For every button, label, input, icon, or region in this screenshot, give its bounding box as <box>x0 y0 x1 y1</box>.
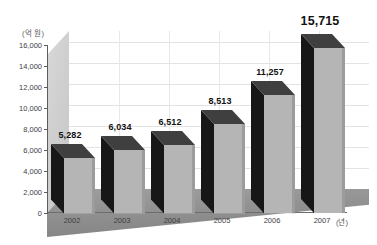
bar-value-label-2006: 11,257 <box>256 67 284 77</box>
bar-front-face <box>164 145 195 213</box>
bar-value-label-2003: 6,034 <box>108 122 131 132</box>
bar-2005[interactable] <box>214 124 245 213</box>
x-axis-tick-label-2005: 2005 <box>214 216 231 225</box>
bar-2007[interactable] <box>314 48 345 213</box>
bar-value-label-2007: 15,715 <box>301 14 340 28</box>
bar-front-shading <box>142 150 145 213</box>
x-axis-unit-label: (년) <box>336 216 348 227</box>
bar-front-shading <box>92 158 95 213</box>
bar-2003[interactable] <box>114 150 145 213</box>
y-axis-tick-label: 8,000 <box>0 125 42 134</box>
y-axis-unit-label: (억 원) <box>22 27 44 38</box>
y-axis-tick-label: 10,000 <box>0 104 42 113</box>
y-axis-tick <box>44 213 48 214</box>
bar-front-shading <box>242 124 245 213</box>
y-axis-tick <box>44 66 48 67</box>
bar-3d-geometry <box>301 34 345 215</box>
bar-2004[interactable] <box>164 145 195 213</box>
bar-front-face <box>264 95 295 213</box>
x-axis-tick-label-2007: 2007 <box>314 216 331 225</box>
bar-value-label-2004: 6,512 <box>158 117 181 127</box>
bar-front-face <box>214 124 245 213</box>
bar-side-face <box>201 110 214 213</box>
y-axis-tick <box>44 171 48 172</box>
bar-front-shading <box>292 95 295 213</box>
y-axis-tick-label: 4,000 <box>0 167 42 176</box>
bar-3d-geometry <box>251 81 295 215</box>
y-axis-tick <box>44 87 48 88</box>
y-axis-tick-label: 14,000 <box>0 62 42 71</box>
bar-front-face <box>64 158 95 213</box>
bar-front-shading <box>192 145 195 213</box>
bar-3d-geometry <box>51 144 95 215</box>
x-axis-tick-label-2006: 2006 <box>264 216 281 225</box>
bar-chart: 02,0004,0006,0008,00010,00012,00014,0001… <box>0 0 377 245</box>
y-axis-tick <box>44 45 48 46</box>
bar-front-face <box>114 150 145 213</box>
bar-front-face <box>314 48 345 213</box>
y-axis-tick <box>44 192 48 193</box>
bar-front-shading <box>342 48 345 213</box>
x-axis-tick-label-2003: 2003 <box>114 216 131 225</box>
y-axis-tick <box>44 150 48 151</box>
bar-3d-geometry <box>151 131 195 215</box>
bar-2002[interactable] <box>64 158 95 213</box>
bar-value-label-2005: 8,513 <box>208 96 231 106</box>
x-axis-tick-label-2002: 2002 <box>64 216 81 225</box>
bar-3d-geometry <box>201 110 245 215</box>
y-axis-tick-label: 2,000 <box>0 188 42 197</box>
y-axis-tick-label: 16,000 <box>0 41 42 50</box>
bar-side-face <box>251 81 264 213</box>
y-axis-tick-label: 0 <box>0 209 42 218</box>
bar-2006[interactable] <box>264 95 295 213</box>
x-axis-tick-label-2004: 2004 <box>164 216 181 225</box>
y-axis-tick <box>44 129 48 130</box>
bar-side-face <box>301 34 314 213</box>
y-axis-tick <box>44 108 48 109</box>
bar-side-face <box>151 131 164 213</box>
y-axis-tick-label: 12,000 <box>0 83 42 92</box>
y-axis-tick-label: 6,000 <box>0 146 42 155</box>
bar-3d-geometry <box>101 136 145 215</box>
bar-value-label-2002: 5,282 <box>58 130 81 140</box>
